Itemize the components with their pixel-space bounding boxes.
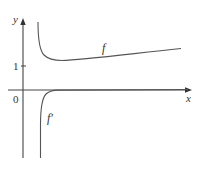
curve-label-f: f xyxy=(102,42,105,54)
chart-canvas xyxy=(0,0,198,170)
y-axis-arrow-icon xyxy=(20,18,25,25)
origin-label: 0 xyxy=(13,94,19,105)
x-axis-label: x xyxy=(186,93,191,104)
curve-f xyxy=(38,22,181,61)
y-axis-label: y xyxy=(13,14,18,25)
curve-label-f-prime: f′ xyxy=(47,112,53,124)
curve-f-prime xyxy=(41,90,189,159)
y-tick-label-1: 1 xyxy=(13,61,19,72)
